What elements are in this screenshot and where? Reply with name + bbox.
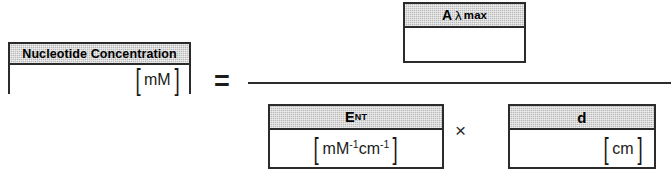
bracket-right-icon: ]: [174, 63, 179, 97]
extinction-coefficient-box: ENT [ mM-1cm-1 ]: [268, 104, 444, 169]
bracket-left-icon: [: [604, 132, 609, 166]
extinction-coefficient-header: ENT: [270, 106, 442, 130]
unit-cm-text: cm: [610, 140, 635, 158]
absorbance-symbol: A: [442, 7, 452, 23]
path-length-unit-area: [ cm ]: [510, 130, 654, 167]
equation-diagram: Nucleotide Concentration [ mM ] = A λ ma…: [0, 0, 671, 175]
extinction-coefficient-unit-area: [ mM-1cm-1 ]: [270, 130, 442, 167]
bracket-right-icon: ]: [393, 132, 398, 166]
extinction-coefficient-symbol: E: [345, 109, 355, 125]
absorbance-lambda-max-box: A λ max: [403, 2, 526, 63]
lambda-icon: λ: [455, 8, 462, 23]
unit-ent-text: mM-1cm-1: [321, 140, 392, 158]
path-length-box: d [ cm ]: [508, 104, 656, 169]
path-length-header: d: [510, 106, 654, 130]
unit-cm-base: cm: [359, 140, 380, 157]
bracket-left-icon: [: [314, 132, 319, 166]
nucleotide-concentration-box: Nucleotide Concentration [ mM ]: [8, 42, 191, 94]
multiplication-sign: ×: [455, 121, 466, 140]
nucleotide-concentration-unit-area: [ mM ]: [10, 65, 189, 94]
unit-mm: [ mM ]: [134, 63, 181, 97]
path-length-symbol: d: [577, 109, 586, 126]
fraction-bar: [248, 82, 671, 84]
absorbance-unit-area: [405, 28, 524, 61]
unit-mm-exponent: -1: [349, 137, 358, 149]
unit-cm-exponent: -1: [380, 137, 389, 149]
unit-cm: [ cm ]: [602, 132, 644, 166]
bracket-left-icon: [: [135, 63, 140, 97]
unit-mm-text: mM: [142, 71, 173, 89]
bracket-right-icon: ]: [637, 132, 642, 166]
absorbance-max-subscript: max: [464, 9, 487, 21]
absorbance-lambda-max-header: A λ max: [405, 4, 524, 28]
unit-mm-inv-cm-inv: [ mM-1cm-1 ]: [312, 132, 399, 166]
unit-mm-base: mM: [323, 140, 350, 157]
nucleotide-concentration-label: Nucleotide Concentration: [22, 47, 177, 61]
equals-sign: =: [214, 68, 230, 95]
